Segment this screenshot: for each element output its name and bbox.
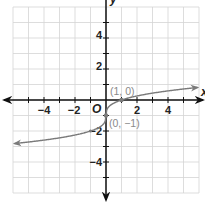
y-tick-label: 4 [96, 29, 103, 41]
y-axis-label: y [109, 0, 118, 6]
point-label-0-m1: (0, −1) [109, 117, 140, 129]
x-tick-label: 4 [165, 104, 172, 116]
point-label-1-0: (1, 0) [110, 85, 135, 97]
y-tick-label: −4 [89, 156, 102, 168]
origin-label: O [92, 102, 102, 116]
graph: −4 −2 2 4 4 2 −2 −4 O x y (1, 0) (0, −1) [0, 0, 205, 202]
x-axis-label: x [200, 85, 205, 99]
point-m1-m2 [89, 129, 92, 132]
x-tick-label: 2 [134, 104, 140, 116]
point-1-0 [119, 98, 123, 102]
x-tick-label: −4 [38, 104, 51, 116]
point-0-m1 [104, 113, 108, 117]
x-tick-label: −2 [68, 104, 81, 116]
y-tick-label: 2 [96, 60, 102, 72]
